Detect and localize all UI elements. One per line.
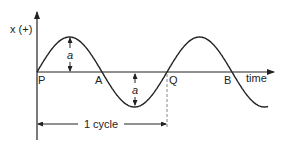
amplitude-label-negative: a: [132, 84, 138, 96]
amplitude-label-positive: a: [67, 49, 73, 61]
y-axis-label: x (+): [10, 23, 32, 35]
point-label-q: Q: [169, 74, 178, 86]
point-label-b: B: [224, 74, 231, 86]
waveform-diagram: a a 1 cycle x (+) time P A Q B: [0, 0, 284, 145]
x-axis-label: time: [246, 72, 267, 84]
point-label-p: P: [38, 74, 45, 86]
cycle-label: 1 cycle: [84, 118, 118, 130]
point-label-a: A: [95, 74, 103, 86]
